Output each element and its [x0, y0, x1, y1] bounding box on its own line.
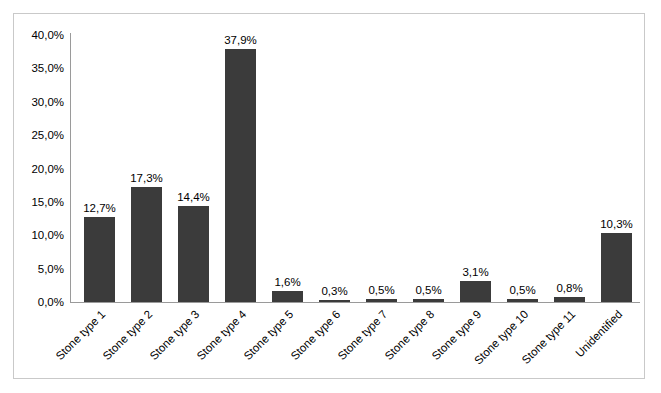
bar-value-label: 0,8% [556, 282, 582, 294]
bar-group: 0,5% [358, 35, 405, 302]
y-axis-tick-label: 35,0% [4, 62, 64, 74]
bar-value-label: 0,3% [321, 285, 347, 297]
bar-group: 0,3% [311, 35, 358, 302]
y-axis-tick-label: 20,0% [4, 163, 64, 175]
bar [460, 281, 491, 302]
y-axis-tick-label: 30,0% [4, 96, 64, 108]
y-axis-tick-label: 0,0% [4, 296, 64, 308]
y-axis-tick-label: 5,0% [4, 263, 64, 275]
bar-value-label: 0,5% [415, 284, 441, 296]
bar-group: 12,7% [76, 35, 123, 302]
y-axis-tick-label: 10,0% [4, 229, 64, 241]
bar-group: 17,3% [123, 35, 170, 302]
bar [272, 291, 303, 302]
bar-group: 3,1% [452, 35, 499, 302]
bar-value-label: 14,4% [177, 191, 210, 203]
bar-group: 37,9% [217, 35, 264, 302]
bar [131, 187, 162, 302]
bar [554, 297, 585, 302]
x-axis-line [70, 302, 640, 303]
y-axis-tick-labels: 0,0%5,0%10,0%15,0%20,0%25,0%30,0%35,0%40… [0, 0, 64, 393]
y-axis-tick-label: 15,0% [4, 196, 64, 208]
bar-value-label: 17,3% [130, 172, 163, 184]
bar-value-label: 1,6% [274, 276, 300, 288]
bar-value-label: 0,5% [368, 284, 394, 296]
y-axis-tick-label: 25,0% [4, 129, 64, 141]
bar-group: 14,4% [170, 35, 217, 302]
bar-value-label: 3,1% [462, 266, 488, 278]
x-axis-category-labels: Stone type 1Stone type 2Stone type 3Ston… [70, 304, 640, 380]
bar-value-label: 12,7% [83, 202, 116, 214]
bar [319, 300, 350, 302]
bar [178, 206, 209, 302]
bar-value-label: 10,3% [600, 218, 633, 230]
bar-value-label: 37,9% [224, 34, 257, 46]
bar [413, 299, 444, 302]
bar [601, 233, 632, 302]
bar-value-label: 0,5% [509, 284, 535, 296]
plot-area: 12,7%17,3%14,4%37,9%1,6%0,3%0,5%0,5%3,1%… [70, 35, 640, 302]
bar-group: 0,5% [499, 35, 546, 302]
bar-chart: 0,0%5,0%10,0%15,0%20,0%25,0%30,0%35,0%40… [0, 0, 661, 393]
bar-group: 10,3% [593, 35, 640, 302]
bar [225, 49, 256, 302]
bar [84, 217, 115, 302]
bar [507, 299, 538, 302]
bar [366, 299, 397, 302]
bar-group: 1,6% [264, 35, 311, 302]
bar-group: 0,5% [405, 35, 452, 302]
x-axis-label-slot: Unidentified [593, 304, 640, 380]
bar-group: 0,8% [546, 35, 593, 302]
y-axis-tick-label: 40,0% [4, 29, 64, 41]
